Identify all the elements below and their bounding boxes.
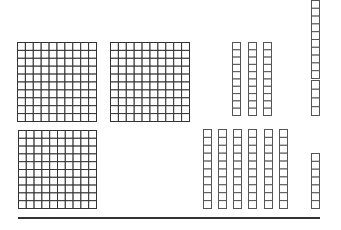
flat-cell <box>89 114 97 122</box>
rod-cell <box>264 79 272 86</box>
flat-cell <box>33 90 41 98</box>
flat-cell <box>26 154 34 162</box>
flat-cell <box>19 170 27 178</box>
rod-cell <box>233 43 241 50</box>
flat-cell <box>33 43 41 51</box>
flat-cell <box>166 66 174 74</box>
flat-cell <box>73 193 81 201</box>
rod-cell <box>280 193 288 201</box>
flat-cell <box>89 177 97 185</box>
flat-cell <box>57 90 65 98</box>
flat-cell <box>57 98 65 106</box>
flat-cell <box>26 131 34 139</box>
flat-cell <box>134 43 142 51</box>
flat-cell <box>73 170 81 178</box>
rod-cell <box>249 50 257 57</box>
flat-cell <box>19 162 27 170</box>
rod-cell <box>233 101 241 108</box>
flat-cell <box>126 74 134 82</box>
unit-cube <box>312 161 320 169</box>
flat-cell <box>65 185 73 193</box>
flat-cell <box>126 114 134 122</box>
flat-cell <box>166 90 174 98</box>
rod-cell <box>312 55 320 63</box>
flat-cell <box>65 50 73 58</box>
flat-cell <box>58 154 66 162</box>
flat-cell <box>25 98 33 106</box>
flat-cell <box>65 154 73 162</box>
flat-cell <box>73 74 81 82</box>
flat-cell <box>134 114 142 122</box>
flat-cell <box>19 193 27 201</box>
ones-stack <box>312 81 320 116</box>
rod-cell <box>233 72 241 79</box>
rod-cell <box>280 161 288 169</box>
unit-cube <box>312 193 320 201</box>
hundred-flat <box>19 131 97 209</box>
flat-cell <box>81 185 89 193</box>
unit-cube <box>312 89 320 98</box>
flat-cell <box>89 170 97 178</box>
rod-cell <box>234 169 242 177</box>
flat-cell <box>73 138 81 146</box>
flat-cell <box>49 82 57 90</box>
rod-cell <box>219 130 227 138</box>
rod-cell <box>219 137 227 145</box>
flat-cell <box>65 74 73 82</box>
flat-cell <box>41 114 49 122</box>
flat-cell <box>65 66 73 74</box>
ten-rod <box>219 130 227 209</box>
flat-cell <box>58 131 66 139</box>
rod-cell <box>265 201 273 209</box>
flat-cell <box>33 106 41 114</box>
flat-cell <box>42 170 50 178</box>
flat-cell <box>81 177 89 185</box>
flat-cell <box>65 162 73 170</box>
flat-cell <box>19 146 27 154</box>
flat-cell <box>19 201 27 209</box>
rod-cell <box>219 153 227 161</box>
flat-cell <box>41 82 49 90</box>
flat-cell <box>26 146 34 154</box>
flat-cell <box>65 193 73 201</box>
flat-cell <box>65 58 73 66</box>
flat-cell <box>118 114 126 122</box>
flat-cell <box>65 90 73 98</box>
flat-cell <box>174 58 182 66</box>
rod-cell <box>265 177 273 185</box>
flat-cell <box>25 106 33 114</box>
flat-cell <box>58 185 66 193</box>
flat-cell <box>65 146 73 154</box>
flat-cell <box>81 90 89 98</box>
flat-cell <box>25 50 33 58</box>
flat-cell <box>25 74 33 82</box>
flat-cell <box>73 131 81 139</box>
rod-cell <box>249 169 257 177</box>
flat-cell <box>118 43 126 51</box>
flat-cell <box>58 162 66 170</box>
flat-cell <box>65 82 73 90</box>
flat-cell <box>41 66 49 74</box>
rod-cell <box>249 185 257 193</box>
flat-cell <box>150 50 158 58</box>
flat-cell <box>26 193 34 201</box>
flat-cell <box>126 43 134 51</box>
rod-cell <box>234 161 242 169</box>
flat-cell <box>81 114 89 122</box>
flat-cell <box>57 43 65 51</box>
ten-rod <box>233 43 241 116</box>
rod-cell <box>234 185 242 193</box>
rod-cell <box>204 177 212 185</box>
flat-cell <box>111 66 119 74</box>
flat-cell <box>50 177 58 185</box>
flat-cell <box>33 58 41 66</box>
flat-cell <box>81 82 89 90</box>
flat-cell <box>126 66 134 74</box>
rod-cell <box>312 1 320 9</box>
rod-cell <box>264 101 272 108</box>
rod-cell <box>265 169 273 177</box>
flat-cell <box>34 177 42 185</box>
flat-cell <box>158 58 166 66</box>
ten-rod <box>234 130 242 209</box>
rod-cell <box>264 43 272 50</box>
